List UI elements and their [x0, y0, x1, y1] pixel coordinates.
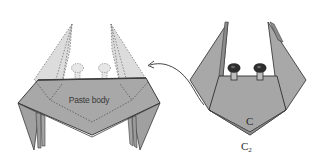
point-c2-label: C2 — [241, 140, 252, 154]
ghost-claw-right — [111, 24, 148, 86]
leg-right-3 — [128, 116, 133, 146]
right-figure-crab-folded: C C2 — [190, 22, 306, 154]
point-c-label: C — [246, 115, 253, 127]
ghost-claw-left — [34, 24, 72, 84]
leg-left-2 — [36, 113, 41, 148]
origami-diagram: Paste body C C2 — [0, 0, 322, 163]
ghost-eye-left — [72, 64, 84, 82]
point-c2-letter: C — [241, 140, 248, 152]
point-c2-subscript: 2 — [248, 146, 252, 154]
left-figure-crab-assembly: Paste body — [18, 24, 160, 150]
paste-body-label: Paste body — [69, 95, 110, 105]
leg-left-3 — [41, 114, 45, 146]
